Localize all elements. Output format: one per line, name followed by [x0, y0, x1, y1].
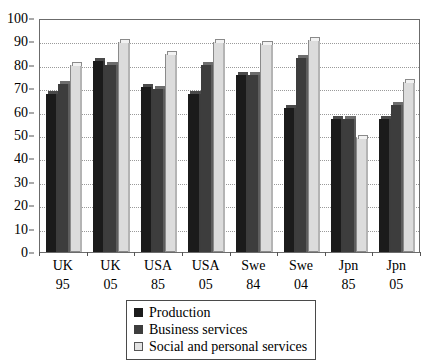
legend-swatch: [134, 342, 143, 351]
bar-side: [128, 39, 130, 252]
bar-cap: [381, 116, 391, 119]
y-tick-mark: [29, 112, 34, 113]
bar: [308, 37, 320, 252]
legend-item: Production: [134, 304, 307, 321]
x-tick-mark: [87, 252, 88, 256]
x-tick-mark: [325, 252, 326, 256]
bar-cap: [60, 81, 70, 84]
x-axis-label: USA85: [134, 256, 182, 294]
x-axis-label-year: 85: [134, 275, 182, 294]
bar-cap: [95, 58, 105, 61]
bar-cap: [405, 79, 415, 83]
bar-cap: [190, 91, 200, 94]
bar: [141, 84, 153, 252]
y-tick-label: 0: [21, 246, 28, 260]
bar-side: [413, 79, 415, 252]
x-axis-label: USA05: [182, 256, 230, 294]
y-tick-mark: [29, 229, 34, 230]
bar: [356, 135, 368, 252]
y-tick-mark: [29, 19, 34, 20]
bar-cap: [333, 116, 343, 119]
bar: [165, 51, 177, 252]
x-axis-label-year: 05: [182, 275, 230, 294]
x-axis-label: UK05: [87, 256, 135, 294]
bar-group: [231, 20, 279, 252]
legend-item: Business services: [134, 321, 307, 338]
bar-side: [318, 37, 320, 252]
bar: [331, 116, 343, 252]
bar-cap: [250, 72, 260, 75]
x-axis-label-year: 05: [87, 275, 135, 294]
y-tick-mark: [29, 253, 34, 254]
x-axis-label-year: 84: [230, 275, 278, 294]
y-tick-label: 100: [7, 12, 28, 26]
bar-cap: [238, 72, 248, 75]
x-tick-mark: [277, 252, 278, 256]
bar-cap: [203, 62, 213, 65]
bar: [403, 79, 415, 252]
bar: [248, 72, 260, 252]
bar: [118, 39, 130, 252]
x-tick-mark: [134, 252, 135, 256]
x-axis-label-name: Swe: [241, 258, 265, 273]
bar-cap: [298, 55, 308, 58]
x-axis-label: Swe04: [277, 256, 325, 294]
y-tick-mark: [29, 182, 34, 183]
y-tick-label: 80: [14, 59, 28, 73]
legend: ProductionBusiness servicesSocial and pe…: [126, 300, 316, 360]
x-axis-label-name: UK: [100, 258, 120, 273]
y-tick-label: 10: [14, 223, 28, 237]
bar-chart: 0102030405060708090100 UK95UK05USA85USA0…: [0, 0, 429, 360]
x-tick-mark: [182, 252, 183, 256]
bar-side: [271, 41, 273, 252]
bar: [58, 81, 70, 252]
bar: [391, 102, 403, 252]
bar: [296, 55, 308, 252]
bar-cap: [393, 102, 403, 105]
bar-cap: [310, 37, 320, 41]
x-axis-label-year: 95: [39, 275, 87, 294]
y-tick-mark: [29, 159, 34, 160]
bar-group: [40, 20, 88, 252]
x-tick-mark: [372, 252, 373, 256]
x-axis-label: Jpn85: [325, 256, 373, 294]
bars-layer: [40, 20, 419, 252]
legend-label: Business services: [149, 321, 247, 338]
bar-group: [135, 20, 183, 252]
y-tick-label: 70: [14, 82, 28, 96]
y-tick-label: 90: [14, 35, 28, 49]
x-axis-label-name: Jpn: [386, 258, 405, 273]
bar-side: [80, 62, 82, 252]
bar-group: [373, 20, 421, 252]
bar: [284, 105, 296, 252]
bar-cap: [262, 41, 272, 45]
y-tick-mark: [29, 65, 34, 66]
x-axis-label-name: Swe: [289, 258, 313, 273]
x-axis-label: Swe84: [230, 256, 278, 294]
bar-cap: [107, 62, 117, 65]
bar-side: [175, 51, 177, 252]
bar-group: [326, 20, 374, 252]
bar-cap: [345, 116, 355, 119]
bar: [236, 72, 248, 252]
bar-group: [88, 20, 136, 252]
bar: [260, 41, 272, 252]
bar-cap: [155, 86, 165, 89]
x-tick-mark: [230, 252, 231, 256]
bar: [105, 62, 117, 252]
bar: [46, 91, 58, 252]
legend-swatch: [134, 308, 143, 317]
bar: [379, 116, 391, 252]
x-axis-label-name: UK: [53, 258, 73, 273]
bar: [93, 58, 105, 252]
x-tick-mark: [420, 252, 421, 256]
x-axis: UK95UK05USA85USA05Swe84Swe04Jpn85Jpn05: [39, 256, 420, 298]
bar: [213, 39, 225, 252]
x-axis-label-name: USA: [144, 258, 172, 273]
x-axis-label: Jpn05: [372, 256, 420, 294]
y-tick-label: 30: [14, 176, 28, 190]
bar: [153, 86, 165, 252]
y-tick-mark: [29, 206, 34, 207]
bar-cap: [120, 39, 130, 43]
legend-swatch: [134, 325, 143, 334]
